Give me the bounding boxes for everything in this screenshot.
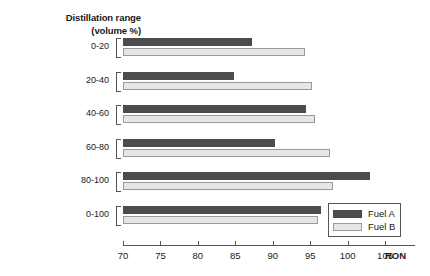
category-tick — [116, 172, 121, 192]
x-axis-tick-label: 85 — [220, 250, 250, 262]
bar-fuel-b — [123, 216, 318, 224]
bar-fill — [123, 48, 305, 56]
bar-fuel-a — [123, 206, 321, 214]
bar-fuel-a — [123, 72, 234, 80]
bar-fuel-a — [123, 38, 252, 46]
x-axis-tick — [123, 241, 124, 246]
x-axis-tick — [348, 241, 349, 246]
legend-swatch-icon-fuel-b — [333, 223, 362, 231]
bar-fuel-a — [123, 172, 370, 180]
category-label: 40-60 — [0, 107, 109, 119]
bar-fuel-a — [123, 139, 275, 147]
category-tick — [116, 206, 121, 226]
legend-label-fuel-a: Fuel A — [368, 208, 395, 219]
bar-fill — [123, 115, 315, 123]
bar-fuel-a — [123, 105, 306, 113]
bar-fuel-b — [123, 182, 333, 190]
bar-fill — [123, 105, 306, 113]
bar-fill — [123, 72, 234, 80]
category-label: 80-100 — [0, 174, 109, 186]
bar-fill — [123, 182, 333, 190]
bar-fuel-b — [123, 48, 305, 56]
x-axis-tick-label: 100 — [333, 250, 363, 262]
x-axis-tick — [235, 241, 236, 246]
chart-title: Distillation range (volume %) — [8, 11, 141, 37]
bar-group: 0-20 — [123, 36, 415, 60]
legend-label-fuel-b: Fuel B — [368, 221, 395, 232]
x-axis-line — [123, 245, 415, 246]
legend-item-fuel-a: Fuel A — [333, 207, 395, 220]
legend-swatch-icon-fuel-a — [333, 210, 362, 218]
bar-fill — [123, 139, 275, 147]
bar-chart: Distillation range (volume %) 0-2020-404… — [0, 0, 430, 276]
bar-fill — [123, 216, 318, 224]
category-tick — [116, 72, 121, 92]
bar-group: 60-80 — [123, 137, 415, 161]
bar-fuel-b — [123, 115, 315, 123]
legend-item-fuel-b: Fuel B — [333, 220, 395, 233]
x-axis-tick — [160, 241, 161, 246]
x-axis-tick — [310, 241, 311, 246]
category-label: 20-40 — [0, 74, 109, 86]
x-axis-tick — [198, 241, 199, 246]
chart-title-line2: (volume %) — [8, 24, 141, 37]
x-axis-tick-label: 80 — [183, 250, 213, 262]
bar-group: 20-40 — [123, 70, 415, 94]
bar-fill — [123, 172, 370, 180]
bar-group: 80-100 — [123, 170, 415, 194]
bar-fill — [123, 82, 312, 90]
x-axis-tick-label: 70 — [108, 250, 138, 262]
x-axis-tick-label: 95 — [295, 250, 325, 262]
category-tick — [116, 38, 121, 58]
bar-fuel-b — [123, 82, 312, 90]
bar-fill — [123, 38, 252, 46]
category-label: 0-20 — [0, 40, 109, 52]
legend: Fuel A Fuel B — [328, 203, 401, 237]
x-axis-tick-label: 90 — [258, 250, 288, 262]
x-axis-tick — [385, 241, 386, 246]
category-label: 60-80 — [0, 141, 109, 153]
x-axis-label: RON — [385, 250, 406, 262]
bar-fuel-b — [123, 149, 330, 157]
chart-title-line1: Distillation range — [66, 12, 141, 23]
category-tick — [116, 139, 121, 159]
bar-fill — [123, 149, 330, 157]
category-tick — [116, 105, 121, 125]
bar-group: 40-60 — [123, 103, 415, 127]
x-axis-tick — [273, 241, 274, 246]
x-axis-tick-label: 75 — [145, 250, 175, 262]
bar-fill — [123, 206, 321, 214]
category-label: 0-100 — [0, 208, 109, 220]
